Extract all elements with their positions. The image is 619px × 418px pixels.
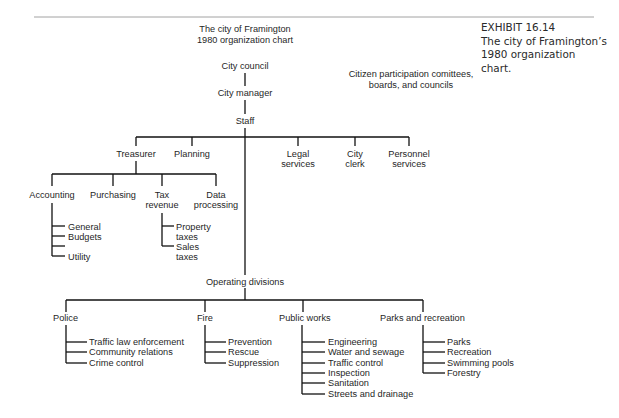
public-works-item: Sanitation xyxy=(328,378,369,388)
public-works-item: Water and sewage xyxy=(328,347,404,357)
exhibit-caption: EXHIBIT 16.14 The city of Framington’s 1… xyxy=(481,21,619,75)
item-utility: Utility xyxy=(68,252,91,262)
node-purchasing: Purchasing xyxy=(90,190,136,200)
item-general: General xyxy=(68,222,101,232)
exhibit-caption-line1: The city of Framington’s xyxy=(481,35,619,49)
node-parks-and-recreation: Parks and recreation xyxy=(380,313,465,323)
item-sales-taxes-1: Sales xyxy=(176,242,199,252)
police-item: Traffic law enforcement xyxy=(89,337,184,347)
parks-item: Swimming pools xyxy=(447,358,514,368)
fire-item: Rescue xyxy=(228,347,259,357)
node-data-processing-2: processing xyxy=(194,200,238,210)
node-treasurer: Treasurer xyxy=(116,149,155,159)
node-staff: Staff xyxy=(236,116,255,126)
node-data-processing-1: Data xyxy=(206,190,226,200)
fire-item: Suppression xyxy=(228,358,279,368)
exhibit-caption-line2: 1980 organization xyxy=(481,48,619,62)
police-item: Community relations xyxy=(89,347,173,357)
node-personnel-services-2: services xyxy=(392,159,426,169)
item-sales-taxes-2: taxes xyxy=(176,252,198,262)
node-personnel-services-1: Personnel xyxy=(388,149,429,159)
public-works-item: Engineering xyxy=(328,337,377,347)
node-fire: Fire xyxy=(197,313,213,323)
node-city-council: City council xyxy=(222,61,269,71)
parks-item: Parks xyxy=(447,337,471,347)
node-legal-services-1: Legal xyxy=(287,149,309,159)
citizen-participation-line2: boards, and councils xyxy=(369,80,454,90)
exhibit-caption-line3: chart. xyxy=(481,62,619,76)
chart-title-line1: The city of Framington xyxy=(199,24,290,34)
chart-title-line2: 1980 organization chart xyxy=(197,35,293,45)
node-accounting: Accounting xyxy=(29,190,74,200)
item-budgets: Budgets xyxy=(68,232,102,242)
parks-item: Forestry xyxy=(447,368,481,378)
node-tax-revenue-2: revenue xyxy=(145,200,178,210)
node-public-works: Public works xyxy=(279,313,331,323)
node-city-clerk-2: clerk xyxy=(345,159,365,169)
node-operating-divisions: Operating divisions xyxy=(206,277,285,287)
police-item: Crime control xyxy=(89,358,144,368)
public-works-item: Traffic control xyxy=(328,358,383,368)
node-tax-revenue-1: Tax xyxy=(155,190,170,200)
parks-item: Recreation xyxy=(447,347,491,357)
citizen-participation-line1: Citizen participation comittees, xyxy=(349,69,474,79)
node-legal-services-2: services xyxy=(281,159,315,169)
public-works-item: Streets and drainage xyxy=(328,389,413,399)
node-planning: Planning xyxy=(174,149,210,159)
item-property-taxes-1: Property xyxy=(176,222,211,232)
node-police: Police xyxy=(53,313,78,323)
item-property-taxes-2: taxes xyxy=(176,232,198,242)
fire-item: Prevention xyxy=(228,337,272,347)
node-city-manager: City manager xyxy=(218,88,273,98)
node-city-clerk-1: City xyxy=(347,149,363,159)
public-works-item: Inspection xyxy=(328,368,370,378)
exhibit-label: EXHIBIT 16.14 xyxy=(481,21,619,35)
